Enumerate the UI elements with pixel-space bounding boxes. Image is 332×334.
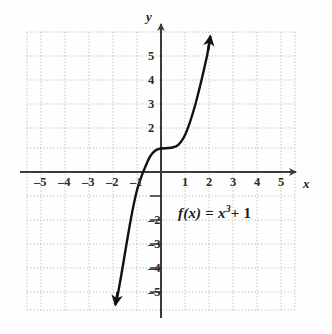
equation-variable: x <box>218 205 226 221</box>
x-tick-label-neg4: –4 <box>58 176 71 189</box>
equation-equals: = <box>201 205 218 221</box>
y-tick-label-neg4: –4 <box>148 262 161 275</box>
x-axis-label: x <box>303 177 310 190</box>
equation-plus-one: + 1 <box>231 205 251 221</box>
x-tick-label-neg2: –2 <box>106 176 119 189</box>
plot-canvas <box>0 0 332 334</box>
y-tick-label-3: 3 <box>148 98 154 111</box>
function-equation-label: f(x) = x3+ 1 <box>178 203 251 222</box>
y-tick-label-5: 5 <box>148 50 154 63</box>
x-tick-label-neg3: –3 <box>82 176 95 189</box>
curve-arrow-down <box>115 292 117 305</box>
y-tick-label-4: 4 <box>148 74 154 87</box>
y-tick-label-2: 2 <box>148 122 154 135</box>
x-tick-label-2: 2 <box>206 176 212 189</box>
x-tick-label-neg1: –1 <box>130 176 143 189</box>
x-tick-label-1: 1 <box>182 176 188 189</box>
graph-figure: y x –5 –4 –3 –2 –1 1 2 3 4 5 5 4 3 2 –2 … <box>0 0 332 334</box>
curve-arrow-up <box>208 36 210 50</box>
equation-argument: (x) <box>183 205 201 221</box>
x-tick-label-3: 3 <box>230 176 236 189</box>
x-tick-label-4: 4 <box>254 176 260 189</box>
x-tick-label-neg5: –5 <box>34 176 47 189</box>
y-tick-label-neg5: –5 <box>148 286 161 299</box>
x-tick-label-5: 5 <box>278 176 284 189</box>
y-tick-label-neg2: –2 <box>148 214 161 227</box>
y-tick-label-neg3: –3 <box>148 238 161 251</box>
y-axis-label: y <box>146 10 152 23</box>
